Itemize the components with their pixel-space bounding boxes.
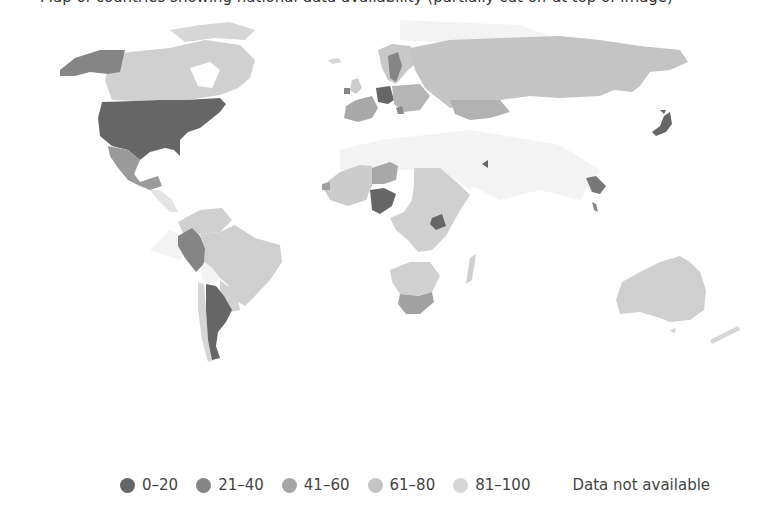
legend-label: 81–100 bbox=[475, 476, 530, 494]
legend-item-81-100: 81–100 bbox=[453, 476, 530, 494]
region-madagascar[interactable] bbox=[466, 254, 476, 284]
legend-dot-icon bbox=[120, 478, 135, 493]
region-canada[interactable] bbox=[105, 40, 255, 101]
legend-dot-icon bbox=[453, 478, 468, 493]
region-iceland bbox=[328, 58, 342, 64]
legend-item-21-40: 21–40 bbox=[196, 476, 264, 494]
world-map bbox=[0, 0, 761, 514]
legend-dot-icon bbox=[368, 478, 383, 493]
region-senegal[interactable] bbox=[322, 182, 330, 190]
region-france-spain[interactable] bbox=[344, 96, 378, 122]
region-ireland[interactable] bbox=[344, 88, 350, 94]
region-australia[interactable] bbox=[616, 256, 706, 322]
legend-dot-icon bbox=[282, 478, 297, 493]
region-tasmania[interactable] bbox=[670, 328, 676, 334]
region-malaysia[interactable] bbox=[592, 202, 598, 212]
map-legend: 0–20 21–40 41–60 61–80 81–100 Data not a… bbox=[120, 476, 710, 494]
region-alaska[interactable] bbox=[60, 50, 125, 76]
region-nigeria[interactable] bbox=[370, 188, 396, 214]
region-kazakhstan[interactable] bbox=[450, 100, 510, 120]
legend-label: 41–60 bbox=[304, 476, 350, 494]
region-japan[interactable] bbox=[652, 112, 672, 136]
region-canada-islands[interactable] bbox=[170, 22, 255, 42]
region-japan-north[interactable] bbox=[660, 110, 666, 114]
legend-dot-icon bbox=[196, 478, 211, 493]
region-central-america bbox=[150, 190, 178, 212]
legend-item-41-60: 41–60 bbox=[282, 476, 350, 494]
region-thailand[interactable] bbox=[586, 176, 606, 194]
region-new-zealand[interactable] bbox=[710, 326, 740, 344]
legend-item-0-20: 0–20 bbox=[120, 476, 178, 494]
region-uk[interactable] bbox=[350, 78, 362, 94]
legend-data-not-available: Data not available bbox=[572, 476, 710, 494]
legend-item-61-80: 61–80 bbox=[368, 476, 436, 494]
legend-label: 0–20 bbox=[142, 476, 178, 494]
region-germany[interactable] bbox=[376, 86, 394, 104]
legend-label: 21–40 bbox=[218, 476, 264, 494]
region-southern-africa[interactable] bbox=[390, 262, 440, 296]
region-russia[interactable] bbox=[410, 36, 688, 108]
legend-label: 61–80 bbox=[390, 476, 436, 494]
